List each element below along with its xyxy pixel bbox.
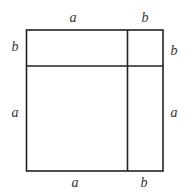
left-label-b: b bbox=[12, 39, 19, 54]
top-label-b: b bbox=[142, 10, 149, 25]
bottom-label-b: b bbox=[141, 175, 148, 190]
square-partition-diagram: a b b a b a a b bbox=[0, 0, 186, 194]
bottom-label-a: a bbox=[72, 175, 79, 190]
left-label-a: a bbox=[12, 105, 19, 120]
right-label-b: b bbox=[171, 43, 178, 58]
top-label-a: a bbox=[70, 10, 77, 25]
right-label-a: a bbox=[171, 105, 178, 120]
outer-square bbox=[27, 30, 164, 171]
